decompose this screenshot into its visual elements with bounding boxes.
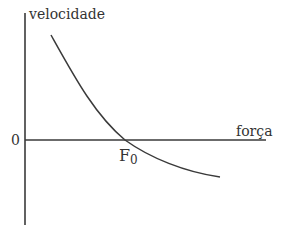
f0-annotation: F0 xyxy=(119,146,138,167)
origin-label: 0 xyxy=(11,132,20,148)
f0-subscript: 0 xyxy=(130,153,138,167)
x-axis-label: força xyxy=(236,123,273,139)
chart-canvas xyxy=(0,0,281,234)
y-axis-label: velocidade xyxy=(29,6,105,22)
f0-main: F xyxy=(119,146,130,165)
